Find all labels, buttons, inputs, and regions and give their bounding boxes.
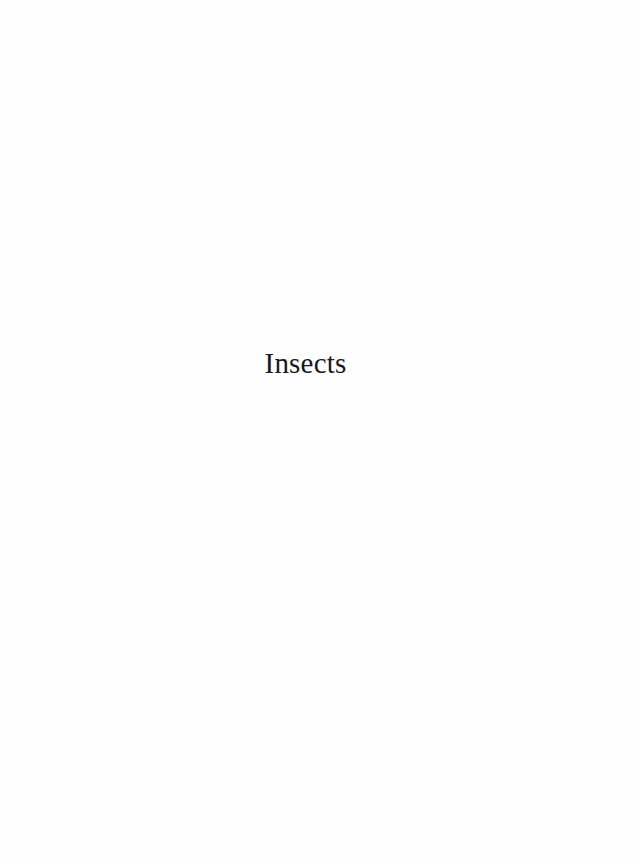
section-title-block: Insects xyxy=(0,349,640,378)
section-title: Insects xyxy=(265,349,347,378)
scanned-page: Insects xyxy=(0,0,640,859)
paper-grain-texture xyxy=(0,0,640,859)
